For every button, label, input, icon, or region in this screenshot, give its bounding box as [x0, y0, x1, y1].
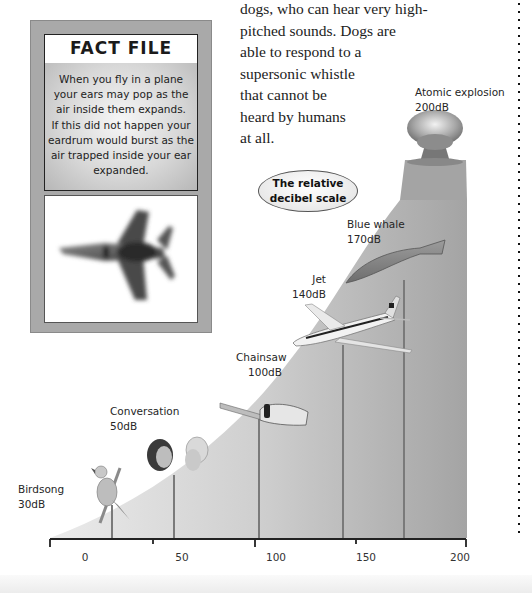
- label-jet: Jet 140dB: [290, 272, 326, 301]
- mushroom-cloud-icon: [407, 110, 463, 166]
- people-talking-icon: [147, 437, 208, 471]
- scale-title-line2: decibel scale: [259, 191, 357, 206]
- label-blue-whale: Blue whale 170dB: [347, 217, 405, 246]
- scale-title-bubble: The relative decibel scale: [258, 170, 358, 212]
- x-tick-150: 150: [346, 551, 386, 563]
- x-tick-200: 200: [440, 551, 480, 563]
- label-chainsaw: Chainsaw 100dB: [236, 350, 282, 379]
- x-tick-100: 100: [256, 551, 296, 563]
- x-tick-50: 50: [162, 551, 202, 563]
- x-tick-0: 0: [65, 551, 105, 563]
- page-bottom-edge: [0, 575, 532, 593]
- label-conversation: Conversation 50dB: [110, 404, 179, 433]
- label-atomic-explosion: Atomic explosion 200dB: [415, 85, 505, 114]
- label-birdsong: Birdsong 30dB: [18, 482, 64, 511]
- scale-title-line1: The relative: [259, 176, 357, 191]
